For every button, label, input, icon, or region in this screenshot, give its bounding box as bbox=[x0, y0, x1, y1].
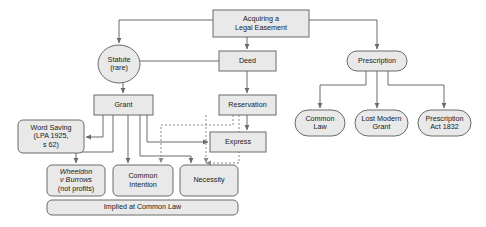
prescription-label: Prescription bbox=[358, 56, 396, 65]
word-saving-lpa-1925-s62-label: s 62) bbox=[43, 140, 59, 149]
node-prescription-act-1832[interactable]: PrescriptionAct 1832 bbox=[418, 110, 471, 136]
implied-at-common-law-label: Implied at Common Law bbox=[104, 202, 182, 211]
statute-rare-label: (rare) bbox=[110, 63, 128, 72]
edge-grant-to-word-saving bbox=[86, 115, 103, 137]
common-intention-label: Intention bbox=[129, 180, 157, 189]
flowchart-svg: Acquiring aLegal EasementStatute(rare)De… bbox=[0, 0, 486, 227]
edge-grant-to-express bbox=[147, 115, 208, 142]
acquiring-a-legal-easement-label: Legal Easement bbox=[235, 23, 287, 32]
lost-modern-grant-label: Grant bbox=[373, 122, 391, 131]
edge-prescription-to-common-law bbox=[320, 71, 366, 108]
node-express[interactable]: Express bbox=[210, 132, 266, 152]
common-law-label: Law bbox=[313, 122, 327, 131]
node-lost-modern-grant[interactable]: Lost ModernGrant bbox=[355, 110, 408, 136]
express-label: Express bbox=[225, 137, 251, 146]
edge-prescription-to-prescription-act bbox=[388, 71, 444, 108]
edge-grant-to-necessity bbox=[140, 115, 191, 163]
edge-root-to-statute bbox=[119, 20, 213, 43]
node-common-intention[interactable]: CommonIntention bbox=[113, 165, 173, 196]
node-prescription[interactable]: Prescription bbox=[347, 51, 407, 71]
node-acquiring-a-legal-easement[interactable]: Acquiring aLegal Easement bbox=[213, 10, 309, 37]
node-layer: Acquiring aLegal EasementStatute(rare)De… bbox=[18, 10, 471, 215]
node-reservation[interactable]: Reservation bbox=[219, 95, 276, 115]
node-word-saving-lpa-1925-s62[interactable]: Word Saving(LPA 1925,s 62) bbox=[18, 120, 84, 153]
deed-label: Deed bbox=[239, 56, 256, 65]
reservation-label: Reservation bbox=[228, 100, 266, 109]
node-wheeldon-v-burrows[interactable]: Wheeldonv Burrows(not profits) bbox=[47, 165, 105, 196]
necessity-label: Necessity bbox=[193, 175, 225, 184]
node-implied-at-common-law[interactable]: Implied at Common Law bbox=[47, 200, 238, 215]
edge-root-to-prescription bbox=[309, 20, 377, 49]
flowchart-canvas: Acquiring aLegal EasementStatute(rare)De… bbox=[0, 0, 486, 227]
node-deed[interactable]: Deed bbox=[219, 51, 276, 71]
prescription-act-1832-label: Act 1832 bbox=[430, 122, 458, 131]
node-statute-rare[interactable]: Statute(rare) bbox=[98, 45, 140, 83]
node-common-law[interactable]: CommonLaw bbox=[295, 110, 345, 136]
grant-label: Grant bbox=[115, 100, 133, 109]
node-grant[interactable]: Grant bbox=[94, 95, 153, 115]
node-necessity[interactable]: Necessity bbox=[180, 165, 238, 196]
wheeldon-v-burrows-label: (not profits) bbox=[58, 184, 94, 193]
